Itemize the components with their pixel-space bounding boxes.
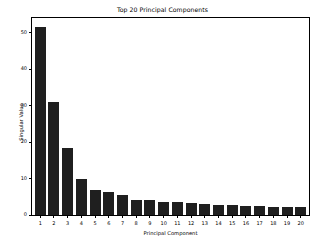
x-tick-mark <box>108 215 109 218</box>
bar <box>227 205 238 215</box>
x-tick-mark <box>81 215 82 218</box>
x-tick-mark <box>53 215 54 218</box>
bar <box>90 190 101 215</box>
bar <box>199 204 210 215</box>
bar <box>172 202 183 215</box>
x-axis-label: Principal Component <box>31 230 310 236</box>
bar-series <box>32 18 309 215</box>
x-tick-mark <box>191 215 192 218</box>
x-tick-mark <box>245 215 246 218</box>
x-tick-mark <box>259 215 260 218</box>
bar <box>48 102 59 215</box>
bar <box>117 195 128 215</box>
bar <box>268 207 279 215</box>
x-tick-mark <box>95 215 96 218</box>
x-tick-mark <box>177 215 178 218</box>
bar <box>213 205 224 215</box>
bar <box>62 148 73 215</box>
chart-figure: Top 20 Principal Components Singular Val… <box>0 0 325 244</box>
x-tick-mark <box>136 215 137 218</box>
bar <box>158 202 169 215</box>
x-tick-mark <box>149 215 150 218</box>
x-tick-mark <box>163 215 164 218</box>
bar <box>254 206 265 215</box>
bar <box>35 27 46 215</box>
y-axis-label: Singular Value <box>18 103 24 140</box>
y-tick-label: 0 <box>24 211 27 217</box>
plot-area: 01020304050 1234567891011121314151617181… <box>31 17 310 216</box>
x-tick-mark <box>232 215 233 218</box>
bar <box>76 179 87 215</box>
x-tick-mark <box>300 215 301 218</box>
y-tick-label: 20 <box>21 138 27 144</box>
x-tick-mark <box>218 215 219 218</box>
bar <box>103 192 114 215</box>
bar <box>144 200 155 215</box>
y-tick-label: 40 <box>21 65 27 71</box>
x-tick-mark <box>40 215 41 218</box>
bar <box>131 200 142 215</box>
x-tick-mark <box>273 215 274 218</box>
x-tick-mark <box>204 215 205 218</box>
y-tick-label: 30 <box>21 102 27 108</box>
x-tick-label: 20 <box>293 220 309 226</box>
y-tick-label: 10 <box>21 175 27 181</box>
x-tick-mark <box>67 215 68 218</box>
chart-title: Top 20 Principal Components <box>0 6 325 13</box>
y-tick-label: 50 <box>21 29 27 35</box>
bar <box>282 207 293 215</box>
bar <box>295 207 306 215</box>
x-tick-mark <box>122 215 123 218</box>
bar <box>186 203 197 215</box>
bar <box>240 206 251 215</box>
x-tick-mark <box>287 215 288 218</box>
